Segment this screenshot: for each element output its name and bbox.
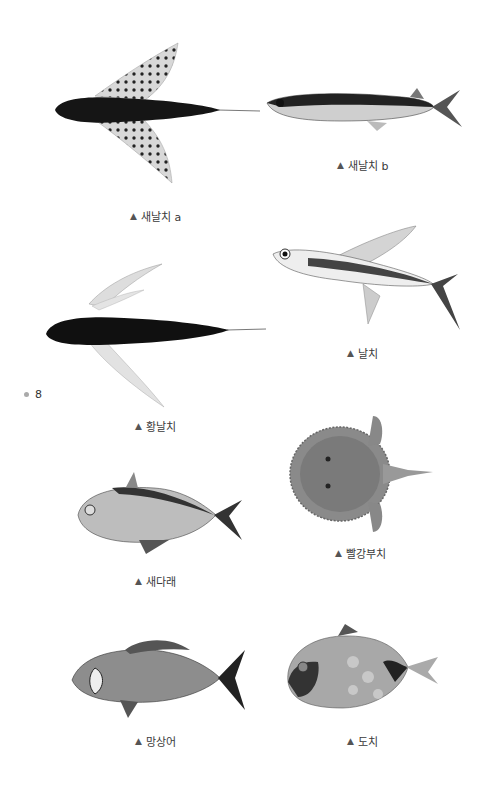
caption-lumpsucker: ▲ 도치 bbox=[347, 733, 378, 749]
triangle-icon: ▲ bbox=[335, 548, 342, 558]
caption-batfish: ▲ 빨강부치 bbox=[335, 545, 386, 561]
caption-seabream: ▲ 망상어 bbox=[135, 733, 176, 749]
caption-text: 새날치 b bbox=[348, 157, 388, 173]
figure-batfish bbox=[288, 414, 438, 534]
caption-text: 새날치 a bbox=[141, 208, 181, 224]
caption-flyingfish-b: ▲ 새날치 b bbox=[337, 157, 388, 173]
caption-text: 새다래 bbox=[146, 573, 176, 589]
figure-seabream bbox=[70, 628, 250, 723]
page-number-text: 8 bbox=[35, 388, 42, 401]
caption-hwang-flyingfish: ▲ 황날치 bbox=[135, 418, 176, 434]
figure-hwang-flyingfish bbox=[44, 262, 269, 412]
caption-pomfret: ▲ 새다래 bbox=[135, 573, 176, 589]
triangle-icon: ▲ bbox=[130, 211, 137, 221]
figure-pomfret bbox=[74, 470, 249, 560]
figure-flyingfish-b bbox=[262, 85, 467, 145]
triangle-icon: ▲ bbox=[347, 736, 354, 746]
caption-text: 날치 bbox=[358, 345, 378, 361]
page-number: 8 bbox=[24, 388, 42, 401]
figure-lumpsucker bbox=[283, 622, 443, 717]
caption-flyingfish: ▲ 날치 bbox=[347, 345, 378, 361]
caption-text: 빨강부치 bbox=[346, 545, 386, 561]
bullet-dot-icon bbox=[24, 392, 29, 397]
triangle-icon: ▲ bbox=[135, 736, 142, 746]
triangle-icon: ▲ bbox=[135, 576, 142, 586]
caption-flyingfish-a: ▲ 새날치 a bbox=[130, 208, 181, 224]
figure-flyingfish bbox=[268, 224, 463, 334]
triangle-icon: ▲ bbox=[337, 160, 344, 170]
triangle-icon: ▲ bbox=[347, 348, 354, 358]
caption-text: 망상어 bbox=[146, 733, 176, 749]
figure-flyingfish-a bbox=[50, 38, 265, 198]
caption-text: 황날치 bbox=[146, 418, 176, 434]
caption-text: 도치 bbox=[358, 733, 378, 749]
triangle-icon: ▲ bbox=[135, 421, 142, 431]
